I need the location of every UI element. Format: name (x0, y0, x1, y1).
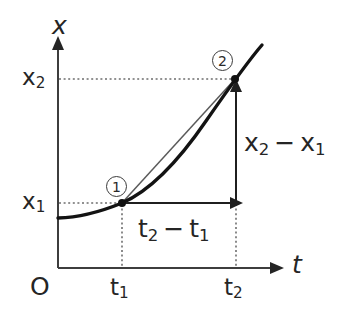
position-time-diagram: 1 2 x t O x1 x2 t1 t2 x2−x1 t2−t1 (0, 0, 337, 322)
x-tick-t2-main: t (224, 274, 233, 300)
x-tick-t1-sub: 1 (119, 284, 129, 302)
delta-t-sub-a: 2 (148, 226, 159, 245)
y-tick-x2-main: x (22, 64, 36, 90)
delta-t-sub-b: 1 (199, 226, 210, 245)
delta-t-main-b: t (189, 214, 199, 243)
delta-x-sub-b: 1 (315, 140, 326, 159)
y-tick-x1-main: x (22, 188, 36, 214)
delta-x-operator: − (274, 128, 295, 157)
secant-line (121, 78, 236, 204)
x-tick-t2-sub: 2 (233, 284, 243, 302)
x-axis-label: t (292, 252, 302, 277)
point-badge-2: 2 (212, 50, 233, 71)
y-tick-x1-sub: 1 (36, 198, 46, 216)
y-axis-label: x (52, 13, 67, 38)
delta-t-label: t2−t1 (138, 216, 210, 244)
y-tick-label-x2: x2 (22, 66, 45, 92)
y-tick-label-x1: x1 (22, 190, 45, 216)
x-tick-t1-main: t (110, 274, 119, 300)
delta-t-operator: − (163, 214, 184, 243)
point-badge-1: 1 (106, 176, 127, 197)
origin-label: O (30, 274, 50, 299)
delta-t-main-a: t (138, 214, 148, 243)
delta-x-sub-a: 2 (259, 140, 270, 159)
x-tick-label-t2: t2 (224, 276, 243, 302)
position-curve (58, 45, 262, 218)
delta-x-label: x2−x1 (244, 130, 326, 158)
x-tick-label-t1: t1 (110, 276, 129, 302)
delta-x-main-b: x (300, 128, 315, 157)
diagram-canvas (0, 0, 337, 322)
data-point-1 (118, 199, 126, 207)
data-point-2 (231, 75, 239, 83)
delta-x-main-a: x (244, 128, 259, 157)
y-tick-x2-sub: 2 (36, 74, 46, 92)
